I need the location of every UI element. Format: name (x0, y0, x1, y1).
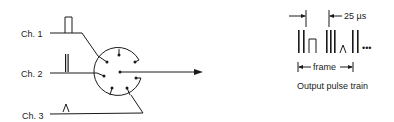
commutator (94, 47, 141, 95)
ch2-label: Ch. 2 (21, 69, 43, 79)
ch1-input-line (50, 17, 98, 56)
ch1-rect-pulse-icon (65, 17, 72, 33)
ch2-double-pulse-icon (65, 54, 69, 72)
slot-width-label: 25 µs (344, 11, 367, 21)
ch1-label: Ch. 1 (21, 29, 43, 39)
ch2-input-line (50, 54, 97, 73)
ch3-triangle-pulse-icon (63, 104, 69, 112)
ch3-label: Ch. 3 (22, 111, 44, 121)
output-caption: Output pulse train (297, 81, 368, 91)
output-pulse-train: 25 µs ••• frame Output pulse train (289, 10, 371, 91)
output-arrow (120, 69, 203, 75)
ch3-input-line (50, 95, 143, 114)
tdm-diagram: Ch. 1 Ch. 2 Ch. 3 (0, 0, 394, 122)
frame-label: frame (313, 62, 336, 72)
continuation-ellipsis: ••• (362, 43, 371, 53)
arrowhead-icon (194, 69, 203, 75)
